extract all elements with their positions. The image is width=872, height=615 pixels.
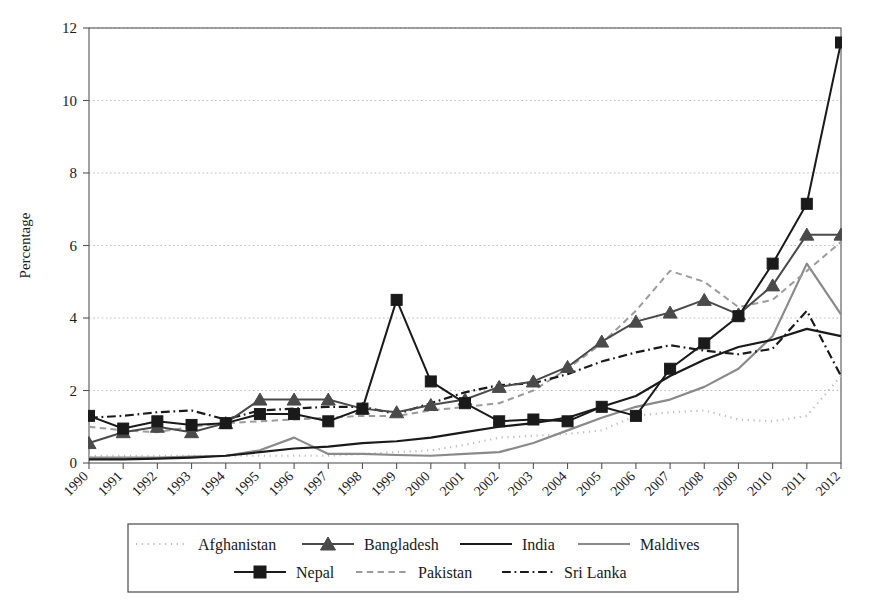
x-tick-label: 1991: [95, 469, 125, 499]
legend-item-bangladesh[interactable]: Bangladesh: [302, 536, 439, 554]
marker-square-nepal: [699, 338, 710, 349]
marker-triangle-bangladesh: [82, 437, 96, 449]
x-tick-label: 2001: [437, 469, 467, 499]
marker-square-nepal: [528, 414, 539, 425]
legend-label-sri-lanka: Sri Lanka: [564, 564, 627, 581]
x-tick-label: 2002: [471, 469, 501, 499]
gridlines: [89, 28, 841, 391]
x-tick-label: 1994: [197, 469, 227, 499]
x-tick-label: 1995: [232, 469, 262, 499]
y-tick-label: 2: [70, 383, 78, 399]
x-tick-label: 1996: [266, 469, 296, 499]
chart-page: 024681012Percentage199019911992199319941…: [0, 0, 872, 615]
marker-square-nepal: [836, 37, 847, 48]
marker-square-nepal: [596, 401, 607, 412]
x-tick-label: 2006: [608, 469, 638, 499]
marker-triangle-bangladesh: [766, 279, 780, 291]
y-tick-label: 12: [62, 20, 77, 36]
marker-square-nepal: [289, 409, 300, 420]
x-tick-label: 1999: [368, 469, 398, 499]
x-tick-label: 2009: [710, 469, 740, 499]
legend-label-pakistan: Pakistan: [418, 564, 472, 581]
marker-square-nepal: [801, 198, 812, 209]
x-tick-label: 2010: [744, 469, 774, 499]
legend-item-india[interactable]: India: [460, 536, 555, 553]
y-tick-label: 10: [62, 93, 77, 109]
marker-square-nepal: [665, 363, 676, 374]
marker-square-nepal: [494, 416, 505, 427]
marker-square-nepal: [562, 416, 573, 427]
marker-square-nepal: [357, 403, 368, 414]
legend: AfghanistanBangladeshIndiaMaldivesNepalP…: [128, 524, 738, 592]
y-tick-label: 6: [70, 238, 78, 254]
marker-square-nepal: [84, 410, 95, 421]
legend-border: [128, 524, 738, 592]
y-tick-label: 8: [70, 165, 78, 181]
series-line-afghanistan: [89, 376, 841, 456]
x-tick-label: 2005: [573, 469, 603, 499]
legend-label-nepal: Nepal: [296, 564, 335, 582]
y-axis-title: Percentage: [17, 212, 33, 278]
x-tick-label: 2012: [813, 469, 843, 499]
x-tick-label: 1997: [300, 469, 330, 499]
marker-square-nepal: [733, 311, 744, 322]
x-tick-label: 2008: [676, 469, 706, 499]
marker-square-nepal: [460, 398, 471, 409]
legend-label-bangladesh: Bangladesh: [364, 536, 439, 554]
x-tick-label: 2004: [539, 469, 569, 499]
x-tick-label: 2011: [779, 469, 809, 499]
x-tick-label: 2003: [505, 469, 535, 499]
marker-triangle-bangladesh: [595, 335, 609, 347]
marker-square-nepal: [118, 423, 129, 434]
x-tick-label: 1993: [163, 469, 193, 499]
marker-square-nepal: [220, 418, 231, 429]
x-tick-label: 1998: [334, 469, 364, 499]
marker-square-nepal: [186, 419, 197, 430]
legend-label-india: India: [522, 536, 555, 553]
marker-square-nepal: [767, 258, 778, 269]
y-tick-label: 0: [70, 455, 78, 471]
x-tick-label: 2007: [642, 469, 672, 499]
y-axis: 024681012: [62, 20, 89, 471]
legend-label-maldives: Maldives: [640, 536, 700, 553]
marker-triangle-bangladesh: [697, 293, 711, 305]
series-line-bangladesh: [89, 235, 841, 443]
legend-item-maldives[interactable]: Maldives: [578, 536, 700, 553]
legend-item-pakistan[interactable]: Pakistan: [356, 564, 472, 581]
legend-swatch-square-nepal: [254, 566, 266, 578]
x-axis: 1990199119921993199419951996199719981999…: [61, 463, 843, 499]
legend-item-sri-lanka[interactable]: Sri Lanka: [502, 564, 627, 581]
y-tick-label: 4: [70, 310, 78, 326]
marker-square-nepal: [254, 409, 265, 420]
line-chart: 024681012Percentage199019911992199319941…: [0, 0, 872, 615]
legend-item-afghanistan[interactable]: Afghanistan: [136, 536, 276, 554]
marker-square-nepal: [323, 416, 334, 427]
marker-triangle-bangladesh: [663, 306, 677, 318]
marker-square-nepal: [152, 416, 163, 427]
x-tick-label: 2000: [403, 469, 433, 499]
legend-item-nepal[interactable]: Nepal: [234, 564, 335, 582]
legend-label-afghanistan: Afghanistan: [198, 536, 276, 554]
marker-square-nepal: [425, 376, 436, 387]
x-tick-label: 1990: [61, 469, 91, 499]
marker-square-nepal: [630, 410, 641, 421]
marker-square-nepal: [391, 294, 402, 305]
x-tick-label: 1992: [129, 469, 159, 499]
